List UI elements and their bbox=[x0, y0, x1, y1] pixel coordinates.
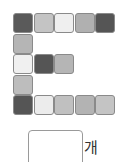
tile-cell bbox=[54, 95, 74, 115]
tile-cell bbox=[13, 95, 33, 115]
tile-cell bbox=[95, 95, 115, 115]
tile-cell bbox=[34, 95, 54, 115]
tile-cell bbox=[13, 75, 33, 95]
tile-cell bbox=[34, 54, 54, 74]
tile-cell bbox=[75, 13, 95, 33]
tile-cell bbox=[75, 95, 95, 115]
tile-cell bbox=[54, 13, 74, 33]
tile-cell bbox=[95, 13, 115, 33]
tile-cell bbox=[13, 13, 33, 33]
tile-cell bbox=[13, 54, 33, 74]
tile-cell bbox=[54, 54, 74, 74]
unit-label: 개 bbox=[84, 138, 98, 158]
answer-input-box[interactable] bbox=[28, 130, 83, 162]
tile-cell bbox=[34, 13, 54, 33]
tile-cell bbox=[13, 34, 33, 54]
